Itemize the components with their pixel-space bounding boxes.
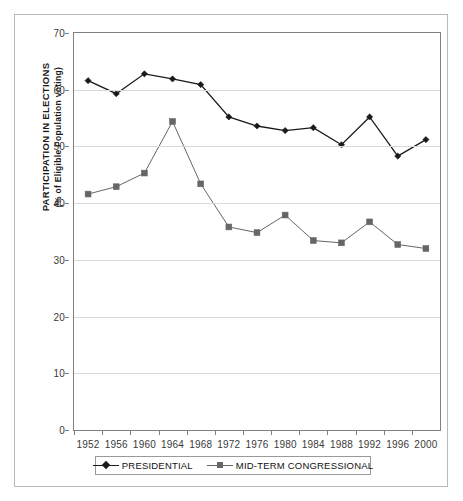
x-axis-tick-label: 1972 — [217, 439, 240, 450]
x-axis-tick-mark — [356, 431, 357, 435]
x-axis-tick-mark — [384, 431, 385, 435]
x-axis-tick-label: 1952 — [77, 439, 100, 450]
y-axis-tick-label: 30 — [53, 254, 65, 265]
data-point-square — [423, 246, 429, 252]
x-axis-tick-label: 1980 — [274, 439, 297, 450]
data-point-square — [254, 230, 260, 236]
legend-entry[interactable]: PRESIDENTIAL — [93, 460, 193, 471]
x-axis-tick-label: 1992 — [358, 439, 381, 450]
y-axis-tick-label: 20 — [53, 311, 65, 322]
x-axis-tick-label: 1988 — [330, 439, 353, 450]
data-point-square — [310, 238, 316, 244]
chart-legend: PRESIDENTIALMID-TERM CONGRESSIONAL — [95, 456, 371, 475]
gridline — [74, 203, 440, 204]
x-axis-tick-label: 1984 — [302, 439, 325, 450]
data-point-square — [170, 119, 176, 125]
x-axis-tick-label: 1956 — [105, 439, 128, 450]
x-axis-tick-mark — [187, 431, 188, 435]
data-point-square — [198, 181, 204, 187]
series-layer — [74, 33, 440, 430]
y-axis-tick-label: 70 — [53, 28, 65, 39]
data-point-diamond — [254, 123, 260, 129]
x-axis-tick-label: 1960 — [133, 439, 156, 450]
y-axis-tick-mark — [65, 146, 69, 147]
x-axis-tick-mark — [102, 431, 103, 435]
x-axis-tick-mark — [271, 431, 272, 435]
data-point-square — [226, 224, 232, 230]
legend-marker-diamond — [102, 461, 110, 469]
data-point-diamond — [282, 127, 288, 133]
x-axis-tick-mark — [327, 431, 328, 435]
y-axis-tick-label: 50 — [53, 141, 65, 152]
gridline — [74, 90, 440, 91]
x-axis-tick-label: 1964 — [161, 439, 184, 450]
y-axis-tick-mark — [65, 430, 69, 431]
gridline — [74, 317, 440, 318]
data-point-square — [113, 184, 119, 190]
x-axis-tick-mark — [299, 431, 300, 435]
x-axis-tick-label: 1996 — [386, 439, 409, 450]
y-axis-tick-label: 40 — [53, 198, 65, 209]
x-axis-tick-mark — [159, 431, 160, 435]
data-point-square — [367, 219, 373, 225]
data-point-diamond — [85, 78, 91, 84]
legend-label: MID-TERM CONGRESSIONAL — [236, 460, 373, 471]
x-axis-tick-labels: 1952195619601964196819721976198019841988… — [73, 436, 441, 454]
y-axis-tick-mark — [65, 90, 69, 91]
x-axis-tick-label: 2000 — [414, 439, 437, 450]
x-axis-tick-label: 1976 — [245, 439, 268, 450]
legend-swatch — [93, 461, 119, 470]
legend-label: PRESIDENTIAL — [122, 460, 193, 471]
y-axis-tick-mark — [65, 33, 69, 34]
data-point-square — [141, 170, 147, 176]
data-point-square — [395, 242, 401, 248]
x-axis-tick-mark — [74, 431, 75, 435]
legend-swatch — [207, 461, 233, 470]
series-line — [88, 74, 426, 156]
data-point-square — [282, 212, 288, 218]
chart-figure: PARTICIPATION IN ELECTIONS (% of Eligibl… — [14, 14, 448, 487]
data-point-diamond — [169, 76, 175, 82]
y-axis-tick-mark — [65, 373, 69, 374]
x-axis-tick-mark — [243, 431, 244, 435]
y-axis-tick-labels: 706050403020100 — [15, 32, 69, 431]
x-axis-tick-mark — [215, 431, 216, 435]
y-axis-tick-mark — [65, 203, 69, 204]
x-axis-tick-label: 1968 — [189, 439, 212, 450]
series-midterm — [85, 119, 429, 252]
gridline — [74, 260, 440, 261]
data-point-square — [339, 240, 345, 246]
data-point-diamond — [310, 125, 316, 131]
gridline — [74, 373, 440, 374]
data-point-diamond — [423, 137, 429, 143]
legend-marker-square — [217, 462, 223, 468]
y-axis-tick-label: 60 — [53, 84, 65, 95]
gridline — [74, 146, 440, 147]
legend-entry[interactable]: MID-TERM CONGRESSIONAL — [207, 460, 373, 471]
plot-area — [73, 32, 441, 431]
x-axis-tick-mark — [412, 431, 413, 435]
y-axis-tick-mark — [65, 260, 69, 261]
y-axis-tick-label: 10 — [53, 368, 65, 379]
data-point-square — [85, 191, 91, 197]
y-axis-tick-mark — [65, 317, 69, 318]
x-axis-tick-mark — [130, 431, 131, 435]
